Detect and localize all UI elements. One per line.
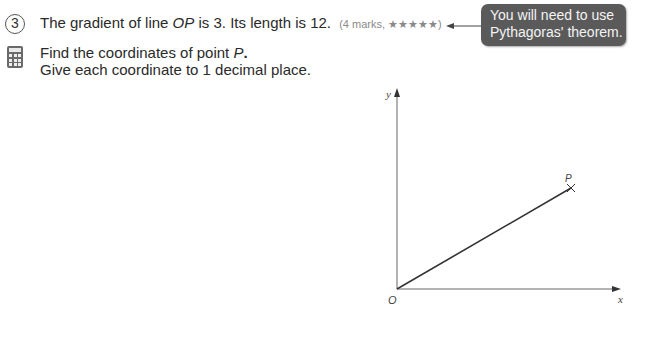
point-p-label: P bbox=[565, 173, 572, 184]
coordinate-diagram: y x O P bbox=[0, 0, 647, 340]
x-axis-label: x bbox=[617, 293, 623, 305]
x-axis bbox=[397, 286, 621, 292]
y-axis-label: y bbox=[385, 88, 391, 100]
y-axis bbox=[394, 88, 400, 289]
point-p-marker-icon bbox=[567, 184, 575, 192]
hint-arrow-icon bbox=[446, 23, 481, 29]
origin-label: O bbox=[388, 294, 397, 306]
line-op bbox=[397, 188, 571, 289]
